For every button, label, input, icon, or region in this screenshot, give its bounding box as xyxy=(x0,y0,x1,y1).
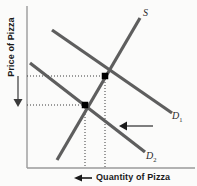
supply-demand-figure: Price of Pizza Quantity of Pizza S D1 D2 xyxy=(0,0,197,186)
y-axis-label: Price of Pizza xyxy=(6,12,16,82)
demand-curve-d2-label: D2 xyxy=(146,150,156,163)
demand-d2-subscript: 2 xyxy=(153,156,156,163)
initial-equilibrium-point xyxy=(102,73,109,80)
quantity-decrease-arrow xyxy=(74,175,92,182)
x-axis-label: Quantity of Pizza xyxy=(96,172,170,182)
supply-curve-label: S xyxy=(143,7,148,18)
diagram-canvas xyxy=(0,0,197,186)
demand-shift-arrow xyxy=(119,122,153,131)
demand-d1-subscript: 1 xyxy=(179,116,182,123)
demand-curve-d1-label: D1 xyxy=(172,110,182,123)
demand-curve-d1 xyxy=(52,30,172,113)
new-equilibrium-point xyxy=(82,102,89,109)
